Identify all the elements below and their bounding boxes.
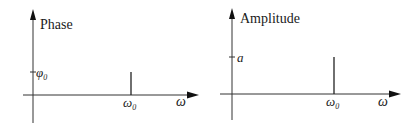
phase-spike-label: ω0 [123, 95, 136, 112]
amplitude-spike-label: ω0 [326, 94, 339, 111]
amplitude-tick-label: a [237, 50, 244, 65]
phase-tick-label: φ0 [36, 65, 47, 82]
spectrum-diagram: Phase φ0 ω0 ω Amplitude a ω0 ω [0, 0, 417, 129]
phase-x-label: ω [176, 94, 186, 109]
amplitude-x-arrow-icon [389, 91, 401, 98]
amplitude-panel: Amplitude a ω0 ω [220, 8, 401, 120]
phase-panel: Phase φ0 ω0 ω [23, 9, 199, 123]
amplitude-y-arrow-icon [229, 8, 235, 19]
phase-y-arrow-icon [30, 9, 36, 20]
amplitude-y-label: Amplitude [240, 11, 300, 26]
phase-y-label: Phase [40, 17, 73, 32]
phase-x-arrow-icon [187, 92, 199, 99]
amplitude-x-label: ω [378, 94, 388, 109]
